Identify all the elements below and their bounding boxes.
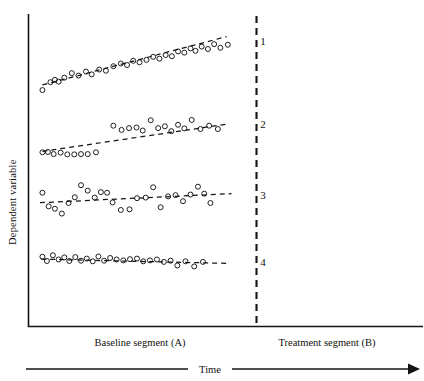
data-point [188, 46, 193, 51]
data-point [207, 123, 212, 128]
data-point [181, 199, 186, 204]
data-point [51, 152, 56, 157]
data-point [225, 42, 230, 47]
data-point [50, 253, 55, 258]
data-point [92, 195, 97, 200]
series-label-2: 2 [260, 118, 266, 130]
data-point [103, 68, 108, 73]
data-point [175, 263, 180, 268]
data-point [148, 118, 153, 123]
data-point [93, 150, 98, 155]
data-point [96, 254, 101, 259]
series-label-4: 4 [260, 256, 266, 268]
data-point [143, 195, 148, 200]
data-point [52, 206, 57, 211]
data-point [119, 127, 124, 132]
data-point [72, 195, 77, 200]
data-point [192, 264, 197, 269]
data-point [65, 152, 70, 157]
data-point [137, 60, 142, 65]
data-point [90, 259, 95, 264]
data-point [98, 190, 103, 195]
y-axis-title: Dependent variable [7, 159, 18, 245]
data-point [198, 127, 203, 132]
phase-b-label: Treatment segment (B) [278, 337, 376, 349]
data-point [212, 42, 217, 47]
data-point [188, 192, 193, 197]
series-group-4: 4 [40, 253, 266, 269]
series-group-3: 3 [40, 183, 266, 216]
data-point [156, 126, 161, 131]
data-point [134, 125, 139, 130]
data-point [110, 200, 115, 205]
data-point [59, 211, 64, 216]
data-point [40, 88, 45, 93]
data-point [205, 46, 210, 51]
data-point [157, 56, 162, 61]
data-point [40, 254, 45, 259]
data-point [62, 255, 67, 260]
data-point [182, 126, 187, 131]
data-point [108, 255, 113, 260]
trendline-1 [42, 37, 226, 85]
series-label-3: 3 [260, 189, 266, 201]
data-point [176, 49, 181, 54]
data-point [127, 207, 132, 212]
data-point [135, 256, 140, 261]
data-point [144, 57, 149, 62]
data-point [44, 259, 49, 264]
data-point [40, 190, 45, 195]
series-label-1: 1 [260, 35, 266, 47]
series-group-2: 2 [40, 117, 266, 156]
data-point [46, 204, 51, 209]
data-point [40, 150, 45, 155]
data-point [195, 184, 200, 189]
data-point [200, 259, 205, 264]
data-point [135, 196, 140, 201]
data-point [140, 128, 145, 133]
data-point [118, 207, 123, 212]
series-layer: 1234 [40, 35, 266, 269]
data-point [199, 44, 204, 49]
data-point [89, 72, 94, 77]
scatter-chart: 1234 Dependent variable Baseline segment… [0, 0, 424, 381]
data-point [163, 53, 168, 58]
data-point [218, 45, 223, 50]
figure-container: 1234 Dependent variable Baseline segment… [0, 0, 424, 381]
time-axis-title: Time [199, 364, 221, 375]
series-group-1: 1 [40, 35, 266, 92]
data-point [85, 188, 90, 193]
data-point [162, 124, 167, 129]
data-point [127, 126, 132, 131]
data-point [169, 54, 174, 59]
data-point [85, 152, 90, 157]
data-point [128, 257, 133, 262]
data-point [79, 152, 84, 157]
data-point [182, 50, 187, 55]
data-point [111, 123, 116, 128]
data-point [215, 127, 220, 132]
data-point [69, 71, 74, 76]
data-point [176, 122, 181, 127]
data-point [189, 117, 194, 122]
data-point [121, 258, 126, 263]
data-point [193, 48, 198, 53]
data-point [79, 183, 84, 188]
axes-group [28, 14, 423, 327]
data-point [73, 255, 78, 260]
data-point [158, 205, 163, 210]
data-point [58, 150, 63, 155]
data-point [72, 152, 77, 157]
data-point [151, 185, 156, 190]
data-point [125, 63, 130, 68]
time-axis-arrow: Time [26, 364, 420, 375]
trendline-3 [40, 194, 232, 203]
time-arrowhead-icon [408, 364, 420, 375]
data-point [105, 190, 110, 195]
data-point [45, 149, 50, 154]
phase-a-label: Baseline segment (A) [95, 337, 186, 349]
data-point [154, 257, 159, 262]
data-point [208, 201, 213, 206]
